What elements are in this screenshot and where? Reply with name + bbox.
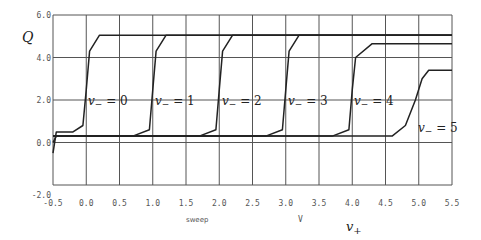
sweep-label: sweep xyxy=(186,216,209,224)
x-tick-label: 2.0 xyxy=(212,199,227,208)
x-tick-label: 3.5 xyxy=(312,199,327,208)
x-tick-label: 4.5 xyxy=(378,199,393,208)
x-tick-label: 0.0 xyxy=(79,199,94,208)
x-tick-labels: -0.50.00.51.01.52.02.53.03.54.04.55.05.5 xyxy=(43,199,459,208)
curve-label: v− = 5 xyxy=(418,121,458,136)
x-tick-label: 4.0 xyxy=(345,199,360,208)
x-tick-label: 1.0 xyxy=(146,199,161,208)
q-vs-vplus-chart: -0.50.00.51.01.52.02.53.03.54.04.55.05.5… xyxy=(0,0,481,240)
y-axis-label: Q xyxy=(22,29,34,45)
x-tick-label: 0.5 xyxy=(112,199,127,208)
curve-label: v− = 4 xyxy=(354,94,394,109)
y-tick-label: 4.0 xyxy=(37,54,52,63)
y-tick-label: 0.0 xyxy=(37,139,52,148)
curve-label: v− = 1 xyxy=(155,94,195,109)
y-tick-label: 2.0 xyxy=(37,96,52,105)
curve-label: v− = 0 xyxy=(88,94,128,109)
y-tick-labels: -2.00.02.04.06.0 xyxy=(32,11,51,200)
unit-label: V xyxy=(298,215,303,224)
y-tick-label: 6.0 xyxy=(37,11,52,20)
y-tick-label: -2.0 xyxy=(32,191,51,200)
curve-label: v− = 3 xyxy=(288,94,328,109)
x-tick-label: 3.0 xyxy=(279,199,294,208)
x-tick-label: 5.0 xyxy=(412,199,427,208)
x-tick-label: 1.5 xyxy=(179,199,194,208)
x-axis-label: v+ xyxy=(346,219,362,236)
curve-label: v− = 2 xyxy=(222,94,262,109)
x-tick-label: 2.5 xyxy=(245,199,260,208)
x-tick-label: -0.5 xyxy=(43,199,62,208)
x-tick-label: 5.5 xyxy=(445,199,460,208)
